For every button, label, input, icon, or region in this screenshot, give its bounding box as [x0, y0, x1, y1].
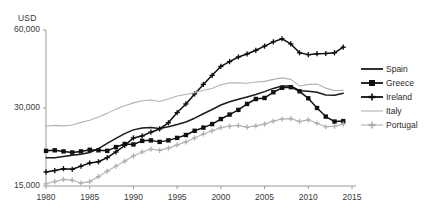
legend-label: Spain: [386, 64, 408, 74]
legend-swatch-italy-icon: [360, 105, 384, 117]
x-tick-label: 2005: [245, 192, 285, 202]
y-tick-label: 30,000: [0, 102, 40, 112]
x-tick-label: 2000: [201, 192, 241, 202]
chart-series-ireland: [43, 36, 345, 174]
x-tick-label: 1995: [157, 192, 197, 202]
y-axis-unit-label: USD: [18, 13, 37, 23]
legend-item-greece[interactable]: Greece: [360, 76, 418, 90]
y-tick-label: 15,000: [0, 180, 40, 190]
legend-label: Italy: [386, 106, 402, 116]
legend-swatch-ireland-icon: [360, 91, 384, 103]
chart-container: USD 15,00030,00060,000 19801985199019952…: [0, 0, 437, 219]
legend-swatch-greece-icon: [360, 77, 384, 89]
chart-legend: SpainGreeceIrelandItalyPortugal: [360, 62, 418, 132]
legend-item-spain[interactable]: Spain: [360, 62, 418, 76]
x-tick-label: 1985: [70, 192, 110, 202]
legend-item-ireland[interactable]: Ireland: [360, 90, 418, 104]
y-tick-label: 60,000: [0, 24, 40, 34]
legend-label: Greece: [386, 78, 414, 88]
legend-swatch-spain-icon: [360, 63, 384, 75]
x-tick-label: 2010: [288, 192, 328, 202]
x-tick-label: 1990: [113, 192, 153, 202]
legend-swatch-portugal-icon: [360, 119, 384, 131]
legend-item-portugal[interactable]: Portugal: [360, 118, 418, 132]
chart-series-italy: [46, 78, 343, 126]
x-tick-label: 1980: [26, 192, 66, 202]
legend-item-italy[interactable]: Italy: [360, 104, 418, 118]
legend-label: Portugal: [386, 120, 418, 130]
legend-label: Ireland: [386, 92, 412, 102]
x-tick-label: 2015: [332, 192, 372, 202]
